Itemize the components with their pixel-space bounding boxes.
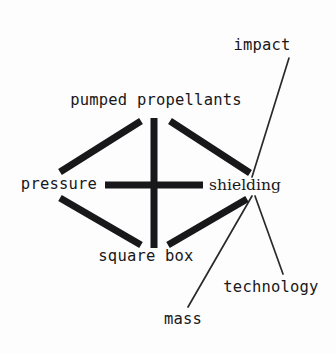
node-impact[interactable]: impact bbox=[233, 38, 290, 54]
edge-pressure-pumped bbox=[60, 121, 141, 172]
edge-technology-shielding bbox=[255, 196, 283, 274]
concept-map-diagram: pumped propellants pressure shielding sq… bbox=[0, 0, 336, 353]
edge-pumped-shielding bbox=[170, 121, 250, 173]
node-pressure[interactable]: pressure bbox=[21, 177, 97, 193]
node-pumped-propellants[interactable]: pumped propellants bbox=[70, 93, 242, 109]
node-square-box[interactable]: square box bbox=[98, 249, 193, 265]
node-technology[interactable]: technology bbox=[223, 280, 318, 296]
node-shielding[interactable]: shielding bbox=[209, 178, 281, 194]
edge-pressure-square bbox=[60, 198, 141, 245]
edge-square-shielding bbox=[168, 199, 247, 245]
node-mass[interactable]: mass bbox=[164, 312, 202, 328]
edge-impact-shielding bbox=[252, 58, 289, 177]
